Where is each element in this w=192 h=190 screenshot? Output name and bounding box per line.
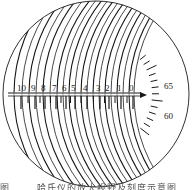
angular-tick: [144, 61, 150, 65]
scale-label: 8: [41, 83, 46, 93]
scale-label: 0: [129, 83, 134, 93]
angular-tick: [147, 118, 153, 121]
angular-label: 65: [164, 81, 174, 91]
angular-tick: [152, 100, 163, 101]
microscope-field-diagram: 109876543210 6560: [0, 0, 192, 190]
angular-tick: [151, 80, 158, 82]
angular-tick: [147, 65, 157, 70]
scale-label: 5: [71, 83, 76, 93]
scale-label: 2: [105, 83, 110, 93]
scale-label: 1: [117, 83, 122, 93]
scale-label: 3: [96, 83, 101, 93]
scale-label: 10: [17, 83, 27, 93]
figure-caption: 图 …… 哈氏仪的放大视野及刻度示意图: [0, 181, 192, 190]
angular-tick: [140, 55, 146, 59]
figure: 109876543210 6560 图 …… 哈氏仪的放大视野及刻度示意图: [0, 0, 192, 190]
angular-tick: [151, 106, 158, 108]
scale-label: 7: [52, 83, 57, 93]
scale-label: 4: [83, 83, 88, 93]
angular-tick: [152, 87, 159, 88]
angular-tick: [149, 73, 156, 75]
angular-tick: [144, 123, 150, 127]
arrow-right-icon: [140, 92, 147, 98]
scale-label: 6: [62, 83, 67, 93]
scale-label: 9: [31, 83, 36, 93]
angular-tick: [149, 112, 156, 114]
angular-tick: [140, 128, 149, 135]
angular-label: 60: [164, 111, 174, 121]
